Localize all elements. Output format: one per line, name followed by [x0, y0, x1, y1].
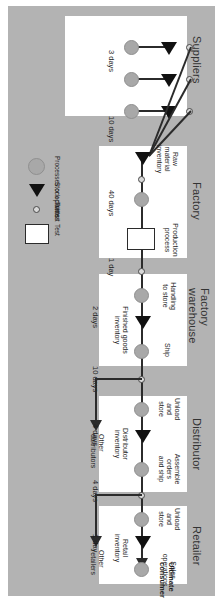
fw-ship-label: Ship — [163, 336, 171, 364]
branch-other-retailers-axis — [95, 494, 97, 538]
dist-assemble-stock — [134, 462, 149, 477]
legend-label-test: Test — [54, 224, 61, 236]
retail-unload-stock — [134, 512, 149, 527]
diagram-stage: Suppliers Factory Factory warehouse Dist… — [8, 6, 215, 596]
lead-time-suppliers-10days: 10 days — [107, 116, 115, 142]
branch-other-retailers-label: Other retailers — [89, 550, 105, 590]
lead-time-factory-40days: 40 days — [107, 190, 115, 216]
diagram-canvas: Suppliers Factory Factory warehouse Dist… — [0, 0, 223, 602]
fw-handling-stock — [134, 288, 149, 303]
legend-glyph-stock-points — [29, 184, 45, 197]
branch-other-retailers-line — [96, 494, 142, 496]
fw-handling-label: Handling to store — [161, 280, 177, 312]
legend-glyph-test — [25, 224, 49, 244]
dist-unload-stock — [134, 402, 149, 417]
lead-time-factory-1day: 1 day — [107, 258, 115, 276]
lead-time-fw-2days: 2 days — [91, 306, 99, 328]
legend: Processes or activities Stock points Tra… — [15, 154, 75, 274]
lead-time-retail-1day: 1 day — [91, 534, 99, 552]
stage-title-retailer: Retailer — [191, 526, 203, 566]
retail-sales-label: Sales operations — [161, 552, 177, 588]
factory-production-test-box — [127, 228, 155, 250]
dist-unload-label: Unload and store — [157, 394, 181, 424]
fw-inventory-activity — [135, 316, 151, 329]
factory-raw-material-label: Raw material inventory — [155, 142, 179, 176]
stage-title-distributor: Distributor — [191, 418, 203, 470]
legend-glyph-processes — [28, 158, 45, 175]
retail-unload-label: Unload and store — [157, 504, 181, 534]
factory-input-transit — [138, 176, 145, 183]
lead-time-suppliers-3days: 3 days — [107, 50, 115, 72]
factory-raw-material-activity — [135, 152, 151, 165]
fw-inventory-label: Finished goods inventory — [113, 302, 129, 358]
factory-production-label: Production process — [163, 220, 179, 260]
branch-other-distributors-axis — [95, 378, 97, 422]
retail-inventory-activity — [135, 536, 151, 549]
dist-inventory-activity — [135, 430, 151, 443]
stage-title-factory-warehouse: Factory warehouse — [187, 288, 211, 344]
factory-stock — [134, 192, 149, 207]
supplier-convergence-lines — [95, 6, 215, 206]
dist-inventory-label: Distributor inventory — [113, 416, 129, 472]
dist-assemble-label: Assemble orders and ship — [157, 450, 181, 488]
factory-output-transit — [138, 268, 145, 275]
legend-glyph-transit — [33, 206, 40, 213]
branch-other-distributors-line — [96, 378, 142, 380]
retail-sales-stock — [134, 562, 149, 577]
lead-time-dist-4days-a: 4 days — [91, 424, 99, 446]
retail-inventory-label: Retail inventory — [113, 524, 129, 572]
legend-label-transit: Transit — [54, 202, 61, 222]
fw-ship-stock — [134, 344, 149, 359]
